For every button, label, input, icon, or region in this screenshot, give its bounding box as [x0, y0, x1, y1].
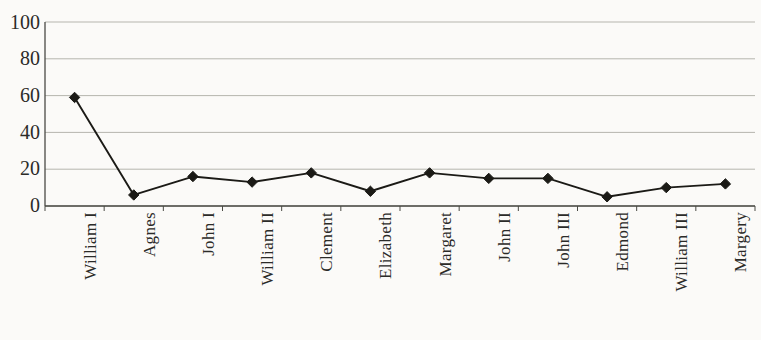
plot-area — [0, 0, 761, 215]
x-axis-tick-label: John III — [555, 212, 573, 322]
data-point-marker — [188, 171, 198, 181]
data-point-marker — [720, 179, 730, 189]
data-point-marker — [661, 182, 671, 192]
x-axis-tick-labels: William IAgnesJohn IWilliam IIClementEli… — [0, 212, 761, 322]
x-axis-tick-label: William III — [673, 212, 691, 322]
data-point-marker — [484, 173, 494, 183]
x-axis-tick-label: Agnes — [141, 212, 159, 322]
x-axis-tick-label: Margaret — [437, 212, 455, 322]
data-point-marker — [543, 173, 553, 183]
data-series-line — [75, 97, 726, 196]
data-point-marker — [69, 92, 79, 102]
x-axis-tick-label: Margery — [732, 212, 750, 322]
data-point-marker — [602, 192, 612, 202]
x-axis-tick-label: William I — [82, 212, 100, 322]
data-point-marker — [247, 177, 257, 187]
x-axis-tick-label: Elizabeth — [377, 212, 395, 322]
x-axis-tick-label: John II — [496, 212, 514, 322]
x-axis-tick-label: John I — [200, 212, 218, 322]
data-point-marker — [129, 190, 139, 200]
line-chart-figure: 100 80 60 40 20 0 William IAgnesJohn IWi… — [0, 0, 761, 340]
x-axis-tick-label: Edmond — [614, 212, 632, 322]
x-axis-tick-label: William II — [259, 212, 277, 322]
x-axis-tick-label: Clement — [318, 212, 336, 322]
data-point-marker — [365, 186, 375, 196]
figure-caption-strip — [0, 329, 761, 340]
